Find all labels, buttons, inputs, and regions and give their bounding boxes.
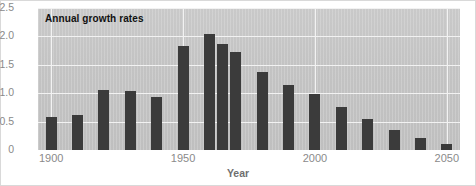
y-axis-tick-label: 2.5 [0,1,14,13]
y-axis-tick-value: 0.5 [0,115,14,127]
y-axis-tick-label: 1.0 [0,86,14,98]
y-axis-tick-label: 0 [0,143,14,155]
bar [98,90,109,150]
bar [283,85,294,150]
bar [46,117,57,150]
bar [125,91,136,150]
y-axis-tick-value: 1.5 [0,58,14,70]
x-axis-tick-label: 1900 [39,152,63,164]
bar [362,119,373,150]
bar [217,44,228,150]
y-axis-tick-label: 0.5 [0,115,14,127]
x-axis-label: Year [0,167,476,179]
y-axis-tick-label: 2.0 [0,29,14,41]
bar [178,46,189,150]
bar [441,144,452,150]
bar [336,107,347,150]
bar [309,94,320,150]
bar [204,34,215,150]
bar [389,130,400,150]
bar [230,52,241,150]
gridline-horizontal [38,65,460,66]
y-axis-tick-label: 1.5 [0,58,14,70]
chart-title: Annual growth rates [45,13,144,24]
y-axis-tick-value: 2.5 [0,1,14,13]
x-axis-tick-label: 2000 [303,152,327,164]
gridline-horizontal [38,8,460,9]
bar [257,72,268,150]
y-axis-tick-value: 1.0 [0,86,14,98]
y-axis-tick-value: 0 [8,143,14,155]
growth-rate-bar-chart-figure: Annual growth rates 2.52.01.51.00.50 190… [0,0,476,186]
gridline-horizontal [38,36,460,37]
gridline-vertical [447,8,448,150]
bar [72,115,83,150]
x-axis-tick-label: 2050 [435,152,459,164]
bar [415,138,426,150]
x-axis-tick-label: 1950 [171,152,195,164]
plot-area: Annual growth rates [38,8,460,150]
bar [151,97,162,150]
y-axis-tick-value: 2.0 [0,29,14,41]
